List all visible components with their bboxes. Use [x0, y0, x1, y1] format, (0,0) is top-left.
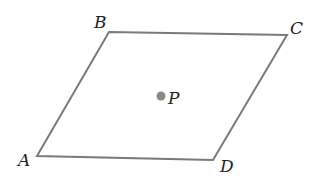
- label-b: B: [93, 12, 107, 32]
- label-c: C: [290, 18, 303, 38]
- label-d: D: [219, 156, 234, 176]
- label-a: A: [16, 150, 30, 170]
- label-p: P: [167, 88, 180, 108]
- point-p-dot: [157, 92, 166, 101]
- parallelogram-diagram: B C A D P: [0, 0, 320, 184]
